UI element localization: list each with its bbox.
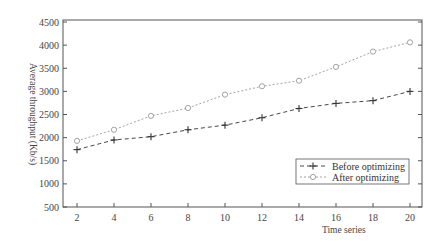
x-tick-label: 20 [405,212,415,223]
legend-entry-label: Before optimizing [332,161,405,172]
y-tick-label: 4500 [39,17,59,28]
x-tick-label: 12 [257,212,267,223]
x-tick-label: 18 [368,212,378,223]
x-axis-label: Time series [322,225,366,235]
y-tick-label: 2500 [39,109,59,120]
x-tick-label: 8 [186,212,191,223]
x-tick-label: 2 [75,212,80,223]
y-tick-label: 3500 [39,63,59,74]
y-tick-label: 4000 [39,40,59,51]
y-tick-label: 3000 [39,86,59,97]
x-axis: 2468101214161820 [75,203,416,223]
x-tick-label: 4 [112,212,117,223]
series-after-optimizing [74,40,412,144]
y-axis-label: Average throughput (Kb/s) [27,63,38,165]
x-tick-label: 6 [149,212,154,223]
y-tick-label: 1500 [39,155,59,166]
x-tick-label: 14 [294,212,304,223]
y-tick-label: 2000 [39,132,59,143]
series-before-optimizing [74,88,414,153]
y-tick-label: 500 [44,202,59,213]
legend: Before optimizingAfter optimizing [296,159,409,184]
line-chart: 50010001500200025003000350040004500 2468… [0,0,445,243]
x-tick-label: 10 [220,212,230,223]
legend-entry-label: After optimizing [332,172,399,183]
y-tick-label: 1000 [39,178,59,189]
series-layer [74,40,414,153]
x-tick-label: 16 [331,212,341,223]
